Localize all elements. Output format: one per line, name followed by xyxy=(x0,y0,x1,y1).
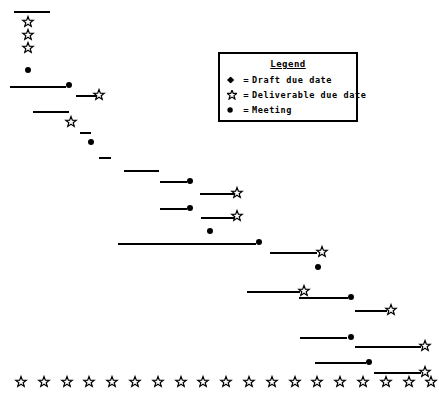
legend-label: Draft due date xyxy=(252,75,332,85)
task-bar xyxy=(14,11,50,13)
task-bar xyxy=(374,372,421,374)
task-bar xyxy=(80,132,91,134)
legend-row: =Meeting xyxy=(227,102,349,117)
legend-label: Deliverable due date xyxy=(252,90,366,100)
task-bar xyxy=(355,310,387,312)
gantt-chart-canvas: Legend =Draft due date=Deliverable due d… xyxy=(0,0,439,403)
task-bar xyxy=(99,157,111,159)
legend-equals-sign: = xyxy=(240,75,252,85)
legend-row: =Draft due date xyxy=(227,72,349,87)
legend-row: =Deliverable due date xyxy=(227,87,349,102)
task-bar xyxy=(299,297,348,299)
task-bar xyxy=(300,337,347,339)
task-bar xyxy=(270,252,317,254)
task-bar xyxy=(355,346,421,348)
task-bar xyxy=(160,208,187,210)
legend-title: Legend xyxy=(220,59,356,69)
task-bar xyxy=(201,217,234,219)
legend-entries: =Draft due date=Deliverable due date=Mee… xyxy=(220,72,356,121)
legend-equals-sign: = xyxy=(240,105,252,115)
legend-equals-sign: = xyxy=(240,90,252,100)
task-bar xyxy=(160,181,187,183)
legend-label: Meeting xyxy=(252,105,292,115)
task-bar xyxy=(10,86,66,88)
task-bar xyxy=(124,170,159,172)
legend-box: Legend =Draft due date=Deliverable due d… xyxy=(218,52,358,122)
draft-due-date-icon xyxy=(227,73,240,86)
task-bar xyxy=(200,193,234,195)
task-bar xyxy=(315,362,366,364)
meeting-icon xyxy=(227,103,240,116)
task-bar xyxy=(118,243,256,245)
task-bar xyxy=(33,111,69,113)
task-bar xyxy=(247,291,300,293)
deliverable-due-date-icon xyxy=(227,88,240,101)
